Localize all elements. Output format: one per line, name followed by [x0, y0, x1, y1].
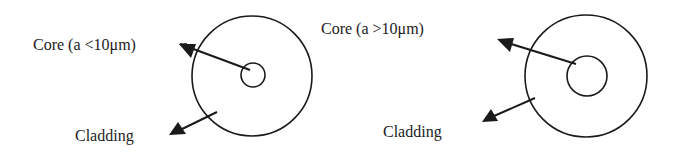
right-cladding-circle	[525, 15, 647, 137]
left-cladding-arrow	[178, 112, 217, 131]
fiber-diagram: Core (a <10μm) Cladding Core (a >10μm) C…	[0, 0, 679, 155]
left-core-label: Core (a <10μm)	[33, 37, 136, 53]
right-core-circle	[567, 56, 607, 96]
right-core-arrow	[508, 43, 576, 64]
left-core-arrowhead-icon	[179, 44, 196, 58]
left-cladding-label: Cladding	[75, 128, 134, 144]
right-core-label: Core (a >10μm)	[321, 21, 424, 37]
right-cladding-label: Cladding	[383, 124, 442, 140]
left-core-circle	[241, 63, 265, 87]
single-mode-fiber	[169, 16, 312, 136]
right-cladding-arrow	[494, 98, 535, 116]
left-cladding-circle	[192, 16, 312, 136]
right-core-arrowhead-icon	[497, 38, 514, 52]
multi-mode-fiber	[482, 15, 647, 137]
